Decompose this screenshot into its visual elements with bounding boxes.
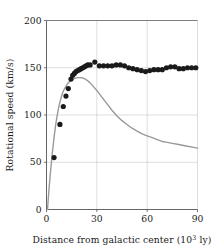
data-point-marker — [51, 155, 56, 160]
grid-lines — [47, 21, 198, 210]
x-tick-label: 60 — [141, 213, 153, 224]
predicted-curve-series — [48, 78, 198, 210]
x-axis-title: Distance from galactic center (103 ly) — [33, 234, 212, 245]
data-point-marker — [63, 94, 68, 99]
x-tick-label: 0 — [44, 213, 50, 224]
predicted-curve-path — [48, 78, 198, 210]
x-tick-label: 30 — [91, 213, 103, 224]
y-tick-labels: 050100150200 — [24, 15, 47, 215]
data-point-marker — [57, 122, 62, 127]
y-axis-title: Rotational speed (km/s) — [4, 59, 15, 172]
y-tick-label: 150 — [24, 62, 42, 73]
y-tick-label: 0 — [36, 204, 42, 215]
x-tick-label: 90 — [192, 213, 204, 224]
chart-canvas: 0306090 050100150200 Rotational speed (k… — [0, 0, 212, 252]
data-point-marker — [61, 104, 66, 109]
y-tick-label: 50 — [30, 156, 42, 167]
galaxy-rotation-curve-figure: 0306090 050100150200 Rotational speed (k… — [0, 0, 212, 252]
observed-points-series — [51, 59, 198, 160]
data-point-marker — [88, 62, 93, 67]
x-tick-labels: 0306090 — [44, 210, 204, 224]
data-point-marker — [193, 65, 198, 70]
x-axis-title-tail: ly) — [196, 234, 211, 245]
data-point-marker — [66, 86, 71, 91]
y-tick-label: 100 — [24, 109, 42, 120]
data-point-marker — [92, 59, 97, 64]
y-tick-label: 200 — [24, 15, 42, 26]
x-axis-title-main: Distance from galactic center (10 — [33, 234, 193, 245]
